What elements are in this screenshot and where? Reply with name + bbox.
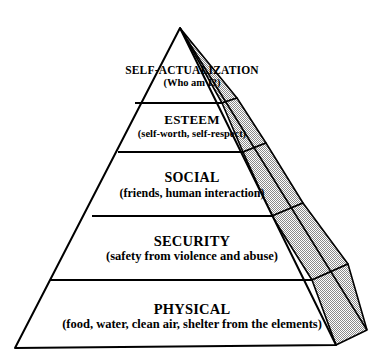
maslow-pyramid-diagram: SELF-ACTUALIZATION (Who am I?) ESTEEM (s…: [0, 0, 384, 362]
pyramid-graphic: [0, 0, 384, 362]
